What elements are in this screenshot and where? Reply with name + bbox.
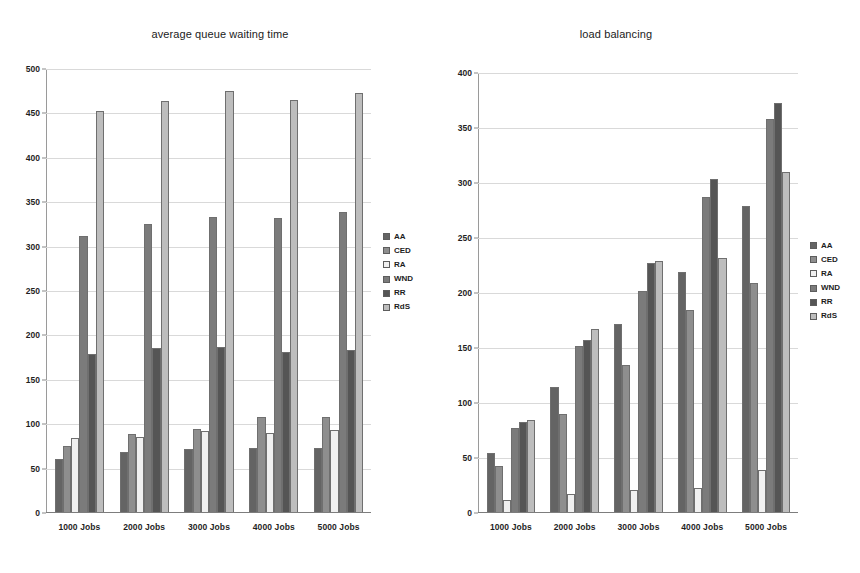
bar-aa[interactable]	[614, 324, 622, 512]
bar-rr[interactable]	[152, 348, 160, 512]
y-tick-label: 0	[467, 508, 472, 518]
bar-ra[interactable]	[503, 500, 511, 512]
legend-label: RA	[394, 261, 406, 269]
bar-rds[interactable]	[225, 91, 233, 512]
bar-ced[interactable]	[622, 365, 630, 512]
bar-rr[interactable]	[774, 103, 782, 512]
bar-rr[interactable]	[217, 347, 225, 512]
legend-item-aa[interactable]: AA	[383, 231, 413, 242]
legend-item-wnd[interactable]: WND	[810, 283, 840, 294]
bar-ced[interactable]	[193, 429, 201, 512]
bar-ra[interactable]	[694, 488, 702, 512]
bar-wnd[interactable]	[144, 224, 152, 512]
bar-ra[interactable]	[758, 470, 766, 512]
bar-rds[interactable]	[655, 261, 663, 512]
legend-label: AA	[821, 242, 833, 250]
x-tick-label: 2000 Jobs	[543, 522, 607, 532]
bar-rr[interactable]	[710, 179, 718, 512]
x-tick-label: 2000 Jobs	[112, 522, 177, 532]
bar-wnd[interactable]	[79, 236, 87, 512]
bar-ra[interactable]	[71, 438, 79, 512]
bar-wnd[interactable]	[702, 197, 710, 512]
bar-rr[interactable]	[519, 422, 527, 512]
y-tick-label: 200	[458, 288, 472, 298]
bar-aa[interactable]	[314, 448, 322, 512]
bar-groups-right	[479, 73, 798, 512]
bar-rds[interactable]	[290, 100, 298, 512]
chart-title-right: load balancing	[430, 28, 860, 40]
bar-aa[interactable]	[550, 387, 558, 512]
legend-swatch-icon	[383, 261, 390, 268]
bar-ra[interactable]	[266, 433, 274, 512]
bar-rds[interactable]	[355, 93, 363, 512]
legend-label: CED	[394, 247, 411, 255]
bar-ced[interactable]	[750, 283, 758, 512]
bar-ced[interactable]	[495, 466, 503, 512]
bar-ra[interactable]	[630, 490, 638, 512]
legend-item-rds[interactable]: RdS	[383, 302, 413, 313]
bar-wnd[interactable]	[339, 212, 347, 512]
bar-aa[interactable]	[487, 453, 495, 512]
bar-rds[interactable]	[782, 172, 790, 512]
bar-rr[interactable]	[583, 340, 591, 512]
legend-item-ced[interactable]: CED	[810, 254, 840, 265]
bar-ra[interactable]	[136, 437, 144, 512]
bar-wnd[interactable]	[209, 217, 217, 512]
bar-aa[interactable]	[678, 272, 686, 512]
legend-label: RdS	[394, 303, 410, 311]
legend-item-rds[interactable]: RdS	[810, 311, 840, 322]
bar-aa[interactable]	[55, 459, 63, 512]
bar-ced[interactable]	[559, 414, 567, 512]
bar-wnd[interactable]	[766, 119, 774, 512]
bar-aa[interactable]	[742, 206, 750, 512]
y-tick-mark	[474, 238, 478, 239]
bar-ra[interactable]	[330, 430, 338, 512]
bar-ra[interactable]	[567, 494, 575, 512]
bar-ra[interactable]	[201, 431, 209, 513]
bar-rds[interactable]	[161, 101, 169, 512]
bar-wnd[interactable]	[274, 218, 282, 512]
bar-rds[interactable]	[591, 329, 599, 512]
legend-item-ced[interactable]: CED	[383, 245, 413, 256]
y-tick-label: 50	[463, 453, 472, 463]
legend-item-ra[interactable]: RA	[810, 268, 840, 279]
y-tick-mark	[474, 128, 478, 129]
bar-rds[interactable]	[96, 111, 104, 512]
x-tick-label: 5000 Jobs	[306, 522, 371, 532]
y-tick-mark	[474, 458, 478, 459]
x-tick-labels-right: 1000 Jobs2000 Jobs3000 Jobs4000 Jobs5000…	[479, 522, 798, 532]
plot-area-right: 050100150200250300350400 1000 Jobs2000 J…	[478, 73, 798, 513]
bar-rr[interactable]	[647, 263, 655, 512]
legend-item-aa[interactable]: AA	[810, 240, 840, 251]
y-tick-label: 150	[26, 375, 40, 385]
legend-swatch-icon	[810, 299, 817, 306]
bar-ced[interactable]	[686, 310, 694, 512]
bar-rds[interactable]	[718, 258, 726, 512]
bar-wnd[interactable]	[638, 291, 646, 512]
bar-wnd[interactable]	[575, 346, 583, 512]
legend-item-rr[interactable]: RR	[810, 297, 840, 308]
y-tick-label: 0	[35, 508, 40, 518]
bar-group	[734, 73, 798, 512]
y-tick-label: 100	[458, 398, 472, 408]
bar-ced[interactable]	[257, 417, 265, 512]
bar-rr[interactable]	[282, 352, 290, 512]
legend-label: CED	[821, 256, 838, 264]
legend-right: AACEDRAWNDRRRdS	[810, 240, 840, 322]
bar-wnd[interactable]	[511, 428, 519, 513]
x-tick-label: 1000 Jobs	[47, 522, 112, 532]
legend-item-ra[interactable]: RA	[383, 259, 413, 270]
y-tick-label: 400	[458, 68, 472, 78]
bar-ced[interactable]	[128, 434, 136, 512]
legend-item-rr[interactable]: RR	[383, 288, 413, 299]
bar-rds[interactable]	[527, 420, 535, 512]
bar-rr[interactable]	[88, 354, 96, 512]
legend-item-wnd[interactable]: WND	[383, 274, 413, 285]
bar-group	[306, 69, 371, 512]
bar-ced[interactable]	[322, 417, 330, 512]
bar-aa[interactable]	[249, 448, 257, 512]
bar-aa[interactable]	[120, 452, 128, 512]
bar-rr[interactable]	[347, 350, 355, 512]
bar-ced[interactable]	[63, 446, 71, 512]
bar-aa[interactable]	[184, 449, 192, 512]
